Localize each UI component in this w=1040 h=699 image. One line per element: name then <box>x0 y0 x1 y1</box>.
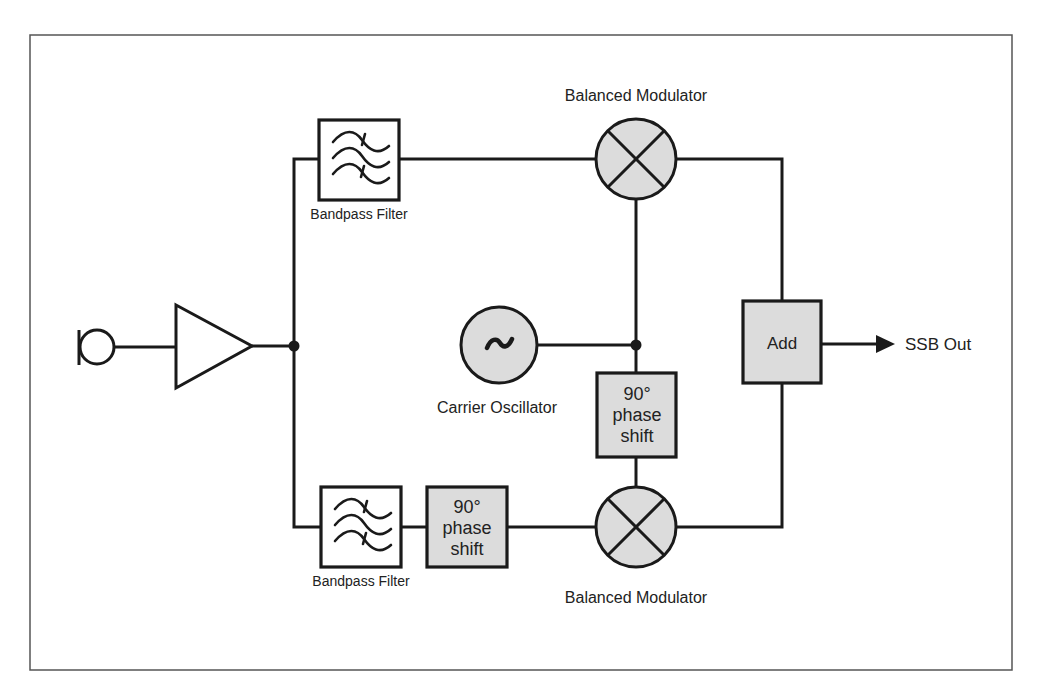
phase-shift-carrier-line2: phase <box>612 405 661 425</box>
microphone-icon <box>79 330 114 365</box>
oscillator-label: Carrier Oscillator <box>437 399 558 416</box>
mixer-x-icon <box>596 119 676 199</box>
oscillator-icon <box>461 307 537 383</box>
modulator-top-label: Balanced Modulator <box>565 87 708 104</box>
modulator-bottom-label: Balanced Modulator <box>565 589 708 606</box>
phase-shift-audio-block: 90° phase shift <box>427 487 507 567</box>
audio-junction-dot <box>289 341 300 352</box>
phase-shift-carrier-line3: shift <box>620 426 653 446</box>
phase-shift-audio-line1: 90° <box>453 497 480 517</box>
phase-shift-audio-line2: phase <box>442 518 491 538</box>
amplifier-icon <box>176 305 252 388</box>
output-label: SSB Out <box>905 335 971 354</box>
output-arrow-icon <box>876 335 895 353</box>
bandpass-filter-top <box>319 120 399 200</box>
phase-shift-carrier-line1: 90° <box>623 384 650 404</box>
phase-shift-audio-line3: shift <box>450 539 483 559</box>
phase-shift-carrier-block: 90° phase shift <box>597 373 676 457</box>
carrier-junction-dot <box>631 340 642 351</box>
ssb-diagram: Bandpass Filter Bandpass Filter 90° phas… <box>0 0 1040 699</box>
mixer-x-icon <box>596 487 676 567</box>
bandpass-filter-bottom <box>321 487 401 567</box>
bandpass-filter-bottom-label: Bandpass Filter <box>312 573 410 589</box>
adder-label: Add <box>767 334 797 353</box>
adder-block: Add <box>743 301 821 383</box>
bandpass-filter-top-label: Bandpass Filter <box>310 206 408 222</box>
